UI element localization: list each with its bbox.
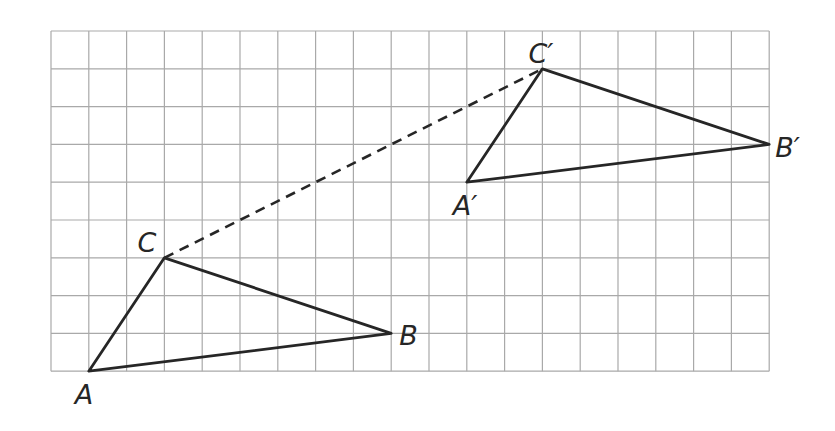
label-a-prime: A′ (451, 190, 478, 221)
translation-diagram: A B C A′ B′ C′ (0, 0, 835, 431)
label-c: C (137, 227, 156, 258)
label-c-prime: C′ (528, 38, 553, 69)
label-a: A (73, 379, 93, 410)
label-b-prime: B′ (775, 132, 800, 163)
label-b: B (399, 320, 418, 351)
